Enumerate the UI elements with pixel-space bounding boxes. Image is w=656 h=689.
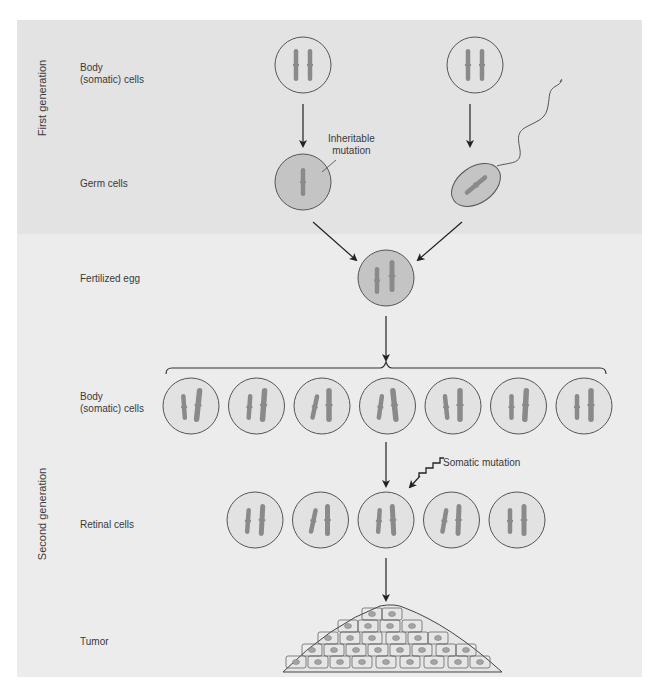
centromere: [479, 64, 485, 66]
centromere: [456, 404, 463, 406]
tumor-cell-nucleus: [369, 636, 376, 641]
tumor-cell-nucleus: [419, 648, 426, 653]
tumor-cell-nucleus: [435, 636, 442, 641]
tumor-cell-nucleus: [415, 636, 422, 641]
tumor-cell-nucleus: [443, 648, 450, 653]
centromere: [293, 64, 299, 66]
tumor-cell-nucleus: [365, 624, 372, 629]
inheritable-mutation-label: Inheritable mutation: [328, 133, 375, 157]
centromere: [325, 404, 332, 406]
cell: [229, 378, 285, 434]
centromere: [465, 64, 471, 66]
cell: [294, 378, 350, 434]
tumor-cell-nucleus: [315, 660, 322, 665]
cell: [293, 492, 349, 548]
cell: [360, 378, 416, 434]
row-label-body-cells-first: Body (somatic) cells: [80, 62, 144, 86]
tumor-cell-nucleus: [345, 624, 352, 629]
tumor-cell-nucleus: [389, 612, 396, 617]
centromere: [390, 519, 397, 521]
tumor-cell-nucleus: [337, 660, 344, 665]
tumor-cell-nucleus: [383, 660, 390, 665]
tumor-cell-nucleus: [293, 660, 300, 665]
tumor-cell-nucleus: [409, 624, 416, 629]
tumor-cell-nucleus: [387, 624, 394, 629]
tumor-cell-nucleus: [431, 660, 438, 665]
cell: [491, 378, 547, 434]
second-generation-label: Second generation: [36, 452, 48, 576]
row-label-body-cells-second: Body (somatic) cells: [80, 391, 144, 415]
tumor-cell-nucleus: [455, 660, 462, 665]
tumor-cell-nucleus: [369, 612, 376, 617]
cell: [275, 37, 331, 93]
centromere: [521, 519, 528, 521]
cell: [447, 37, 503, 93]
centromere: [508, 406, 514, 408]
centromere: [455, 519, 462, 521]
cell: [358, 492, 414, 548]
tumor-cell-nucleus: [375, 648, 382, 653]
centromere: [376, 520, 382, 522]
row-label-germ-cells: Germ cells: [80, 178, 128, 190]
centromere: [507, 520, 513, 522]
cell: [358, 250, 414, 306]
cell: [227, 492, 283, 548]
tumor-cell-nucleus: [325, 636, 332, 641]
centromere: [574, 406, 580, 408]
centromere: [300, 181, 306, 183]
centromere: [522, 404, 529, 406]
centromere: [324, 519, 331, 521]
somatic-mutation-label: Somatic mutation: [443, 457, 520, 469]
centromere: [259, 519, 266, 521]
diagram-canvas: [0, 0, 656, 689]
cell: [424, 492, 480, 548]
row-label-fertilized-egg: Fertilized egg: [80, 273, 140, 285]
cell: [163, 378, 219, 434]
first-generation-label: First generation: [36, 48, 48, 148]
tumor-cell-nucleus: [463, 648, 470, 653]
centromere: [389, 275, 396, 277]
tumor-cell-nucleus: [407, 660, 414, 665]
row-label-tumor: Tumor: [80, 636, 109, 648]
centromere: [374, 280, 380, 282]
cell: [425, 378, 481, 434]
tumor-cell-nucleus: [353, 648, 360, 653]
tumor-cell-nucleus: [397, 648, 404, 653]
centromere: [246, 406, 252, 408]
tumor-cell-nucleus: [331, 648, 338, 653]
tumor-cell-nucleus: [359, 660, 366, 665]
tumor-cell-nucleus: [347, 636, 354, 641]
centromere: [181, 406, 187, 408]
cell: [556, 378, 612, 434]
first-generation-panel: [17, 20, 642, 234]
centromere: [245, 520, 251, 522]
row-label-retinal-cells: Retinal cells: [80, 519, 134, 531]
tumor-cell-nucleus: [477, 660, 484, 665]
second-generation-panel: [17, 234, 642, 677]
cell: [489, 492, 545, 548]
tumor-cell-nucleus: [393, 636, 400, 641]
tumor-cell-nucleus: [309, 648, 316, 653]
centromere: [307, 64, 313, 66]
centromere: [587, 404, 594, 406]
